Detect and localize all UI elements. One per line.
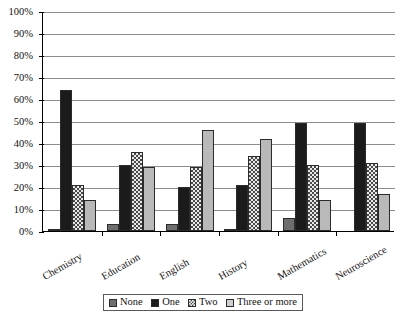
legend-label: One: [162, 297, 180, 308]
x-axis-labels: ChemistryEducationEnglishHistoryMathemat…: [42, 232, 394, 284]
bar: [48, 229, 60, 231]
bar: [166, 224, 178, 231]
bar: [378, 194, 390, 231]
y-axis-tick-label: 40%: [14, 139, 33, 150]
bar: [202, 130, 214, 231]
legend-swatch-icon: [226, 299, 234, 307]
x-axis-category-label: History: [217, 257, 250, 282]
legend-item[interactable]: Two: [188, 297, 218, 308]
x-axis-category-label: Mathematics: [275, 245, 327, 282]
bar: [107, 224, 119, 231]
bar-group: [278, 11, 337, 231]
bar-group: [336, 11, 395, 231]
y-axis-tick-label: 80%: [14, 51, 33, 62]
legend-swatch-icon: [151, 299, 159, 307]
bar-group: [43, 11, 102, 231]
x-axis-label-slot: Chemistry: [46, 232, 104, 284]
bar: [178, 187, 190, 231]
chart-legend: NoneOneTwoThree or more: [103, 294, 303, 311]
legend-item[interactable]: None: [109, 297, 143, 308]
bar: [260, 139, 272, 231]
y-axis-tick-label: 0%: [19, 227, 33, 238]
bar-chart: 0%10%20%30%40%50%60%70%80%90%100% Chemis…: [0, 0, 404, 324]
bar-group: [102, 11, 161, 231]
legend-swatch-icon: [109, 299, 117, 307]
y-axis-tick-label: 10%: [14, 205, 33, 216]
bar: [248, 156, 260, 231]
bar-group: [219, 11, 278, 231]
bar: [236, 185, 248, 231]
y-axis-tick-label: 60%: [14, 95, 33, 106]
x-axis-category-label: English: [158, 256, 191, 282]
x-axis-label-slot: English: [163, 232, 221, 284]
bar: [366, 163, 378, 231]
bar: [84, 200, 96, 231]
x-axis-category-label: Chemistry: [41, 251, 84, 282]
legend-item[interactable]: Three or more: [226, 297, 297, 308]
legend-label: None: [120, 297, 143, 308]
bar: [119, 165, 131, 231]
legend-item[interactable]: One: [151, 297, 180, 308]
x-axis-category-label: Education: [99, 251, 141, 282]
plot-wrapper: [42, 12, 394, 232]
x-axis-label-slot: Neuroscience: [339, 232, 397, 284]
x-axis-label-slot: Mathematics: [281, 232, 339, 284]
bar: [72, 185, 84, 231]
bar: [354, 123, 366, 231]
legend-swatch-icon: [188, 299, 196, 307]
bar: [143, 167, 155, 231]
bar: [224, 229, 236, 231]
y-axis-tick-label: 30%: [14, 161, 33, 172]
bar-groups: [43, 11, 395, 231]
y-axis-tick-label: 20%: [14, 183, 33, 194]
x-axis-category-label: Neuroscience: [334, 244, 389, 282]
x-axis-label-slot: History: [222, 232, 280, 284]
bar: [319, 200, 331, 231]
legend-label: Three or more: [237, 297, 297, 308]
x-axis-label-slot: Education: [105, 232, 163, 284]
plot-area: [42, 12, 394, 232]
bar: [131, 152, 143, 231]
bar: [283, 218, 295, 231]
y-axis-tick-label: 90%: [14, 29, 33, 40]
y-axis-tick-label: 100%: [9, 7, 34, 18]
y-axis-tick-label: 50%: [14, 117, 33, 128]
bar: [60, 90, 72, 231]
bar: [190, 167, 202, 231]
legend-label: Two: [199, 297, 218, 308]
bar: [307, 165, 319, 231]
bar-group: [160, 11, 219, 231]
y-axis-tick-label: 70%: [14, 73, 33, 84]
bar: [295, 123, 307, 231]
y-axis-labels: 0%10%20%30%40%50%60%70%80%90%100%: [0, 12, 40, 232]
